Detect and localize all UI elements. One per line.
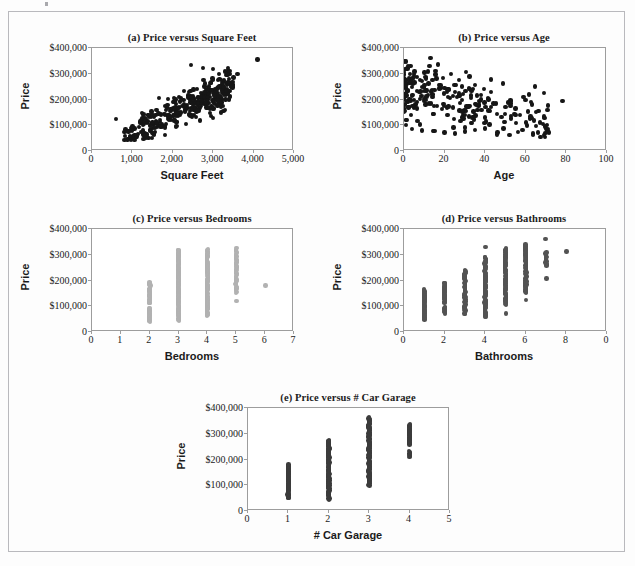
x-axis-label-e: # Car Garage (258, 529, 438, 541)
xtick-label-e-2: 2 (305, 513, 351, 524)
xtick-mark-e-5 (449, 510, 450, 513)
ytick-label-e-2: $200,000 (185, 453, 243, 464)
figure-page: (a) Price versus Square Feet0$100,000$20… (0, 0, 635, 566)
chart-title-e: (e) Price versus # Car Garage (198, 392, 498, 403)
xtick-label-e-3: 3 (345, 513, 391, 524)
xtick-mark-e-0 (247, 510, 248, 513)
ytick-mark-e-3 (244, 433, 247, 434)
xtick-mark-e-2 (328, 510, 329, 513)
ytick-label-e-4: $400,000 (185, 402, 243, 413)
xtick-label-e-0: 0 (224, 513, 270, 524)
ytick-label-e-1: $100,000 (185, 479, 243, 490)
ytick-mark-e-1 (244, 484, 247, 485)
data-point (367, 415, 372, 420)
data-point (286, 462, 291, 467)
data-point (327, 438, 332, 443)
ytick-label-e-3: $300,000 (185, 427, 243, 438)
plot-area-e (247, 407, 449, 510)
chart-panel-e: (e) Price versus # Car Garage0$100,000$2… (9, 12, 624, 551)
xtick-mark-e-4 (409, 510, 410, 513)
y-axis-label-e: Price (175, 426, 187, 486)
xtick-mark-e-1 (287, 510, 288, 513)
xtick-label-e-4: 4 (386, 513, 432, 524)
figure-frame: (a) Price versus Square Feet0$100,000$20… (8, 11, 625, 552)
ytick-mark-e-2 (244, 459, 247, 460)
xtick-mark-e-3 (368, 510, 369, 513)
xtick-label-e-5: 5 (426, 513, 472, 524)
ytick-mark-e-4 (244, 407, 247, 408)
xtick-label-e-1: 1 (264, 513, 310, 524)
scan-artifact-speck (45, 2, 48, 6)
